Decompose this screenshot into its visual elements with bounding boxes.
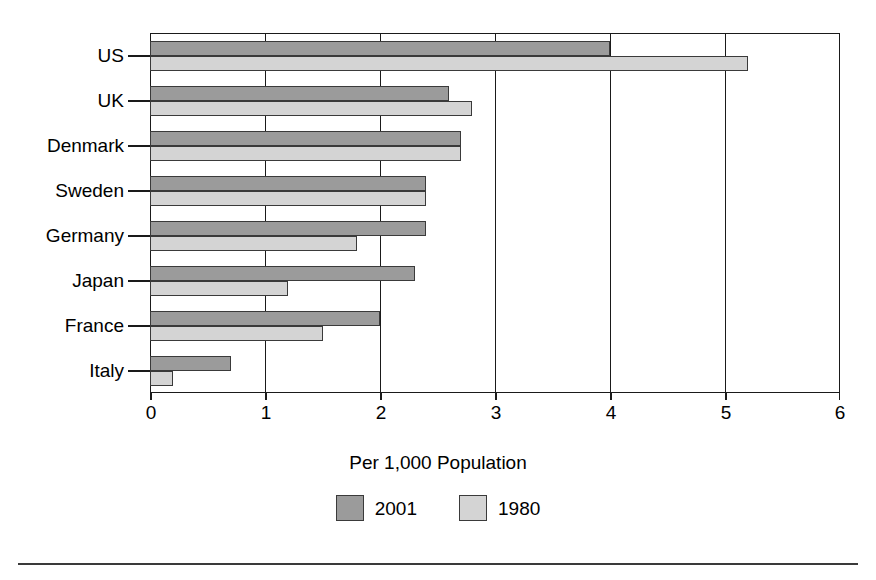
y-axis-label-italy: Italy: [4, 361, 124, 380]
bar-rows: [150, 33, 840, 393]
y-tick-mark: [128, 280, 150, 282]
y-axis-label-germany: Germany: [4, 226, 124, 245]
x-tick-mark: [725, 393, 727, 400]
y-tick-mark: [128, 190, 150, 192]
bar-2001: [150, 221, 426, 236]
category-row: [150, 258, 840, 303]
y-tick-mark: [128, 370, 150, 372]
y-axis-label-france: France: [4, 316, 124, 335]
x-axis-label-2: 2: [361, 402, 401, 424]
bar-2001: [150, 266, 415, 281]
x-axis-label-0: 0: [131, 402, 171, 424]
x-tick-mark: [150, 393, 152, 400]
bar-2001: [150, 356, 231, 371]
legend-entry-2001: 2001: [336, 495, 417, 521]
category-row: [150, 168, 840, 213]
category-row: [150, 33, 840, 78]
y-axis-label-wrap: UK: [0, 91, 124, 110]
legend-swatch-1980: [459, 495, 487, 521]
legend-label-2001: 2001: [375, 499, 417, 518]
x-axis-label-1: 1: [246, 402, 286, 424]
legend-entry-1980: 1980: [459, 495, 540, 521]
bar-1980: [150, 101, 472, 116]
y-tick-mark: [128, 55, 150, 57]
category-row: [150, 303, 840, 348]
bar-2001: [150, 311, 380, 326]
x-axis-label-5: 5: [706, 402, 746, 424]
legend-swatch-2001: [336, 495, 364, 521]
bar-1980: [150, 236, 357, 251]
y-axis-label-sweden: Sweden: [4, 181, 124, 200]
y-axis-label-japan: Japan: [4, 271, 124, 290]
y-axis-label-uk: UK: [4, 91, 124, 110]
x-tick-mark: [495, 393, 497, 400]
footer-divider: [18, 563, 858, 565]
bar-1980: [150, 281, 288, 296]
category-row: [150, 348, 840, 393]
bar-1980: [150, 191, 426, 206]
chart-legend: 2001 1980: [0, 495, 876, 521]
y-axis-label-wrap: Denmark: [0, 136, 124, 155]
bar-2001: [150, 86, 449, 101]
y-tick-mark: [128, 145, 150, 147]
x-axis-label-4: 4: [591, 402, 631, 424]
y-tick-mark: [128, 100, 150, 102]
x-tick-mark: [265, 393, 267, 400]
bar-1980: [150, 371, 173, 386]
y-axis-label-wrap: Italy: [0, 361, 124, 380]
y-axis-label-wrap: France: [0, 316, 124, 335]
x-tick-mark: [839, 393, 841, 400]
category-row: [150, 123, 840, 168]
chart-figure: US UK Denmark Sweden Germany Japan Franc…: [0, 0, 876, 580]
bar-1980: [150, 326, 323, 341]
x-tick-mark: [610, 393, 612, 400]
y-axis-label-denmark: Denmark: [4, 136, 124, 155]
y-tick-mark: [128, 235, 150, 237]
category-row: [150, 213, 840, 258]
y-tick-mark: [128, 325, 150, 327]
bar-2001: [150, 41, 610, 56]
y-axis-label-wrap: Japan: [0, 271, 124, 290]
category-row: [150, 78, 840, 123]
x-tick-mark: [380, 393, 382, 400]
y-axis-label-us: US: [4, 46, 124, 65]
legend-label-1980: 1980: [498, 499, 540, 518]
bar-1980: [150, 56, 748, 71]
x-axis-label-3: 3: [476, 402, 516, 424]
x-axis-label-6: 6: [820, 402, 860, 424]
y-axis-label-wrap: Germany: [0, 226, 124, 245]
y-axis-label-wrap: US: [0, 46, 124, 65]
bar-2001: [150, 131, 461, 146]
bar-2001: [150, 176, 426, 191]
y-axis-label-wrap: Sweden: [0, 181, 124, 200]
bar-1980: [150, 146, 461, 161]
x-axis-title: Per 1,000 Population: [0, 452, 876, 474]
